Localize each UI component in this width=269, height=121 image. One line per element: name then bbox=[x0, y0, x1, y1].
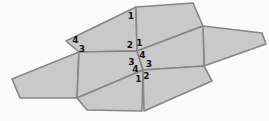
angle-label-2: 2 bbox=[143, 71, 149, 81]
tessellation-diagram: 14321433412 bbox=[0, 0, 269, 121]
angle-label-1: 1 bbox=[135, 74, 141, 84]
angle-label-3: 3 bbox=[79, 44, 85, 54]
diagram-canvas: 14321433412 bbox=[0, 0, 269, 121]
angle-label-1: 1 bbox=[128, 11, 134, 21]
angle-label-4: 4 bbox=[72, 35, 78, 45]
bottom-right-tile bbox=[143, 66, 212, 111]
angle-label-3: 3 bbox=[146, 59, 152, 69]
angle-label-1: 1 bbox=[136, 38, 142, 48]
angle-label-2: 2 bbox=[127, 40, 133, 50]
angle-label-4: 4 bbox=[132, 64, 138, 74]
left-tile bbox=[12, 52, 79, 98]
right-tile bbox=[203, 26, 266, 66]
angle-label-4: 4 bbox=[139, 50, 145, 60]
